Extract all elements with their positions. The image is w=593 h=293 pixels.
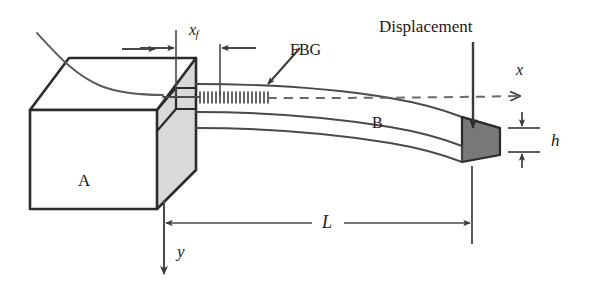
- xf-subscript: f: [196, 28, 199, 40]
- thickness-h-label: h: [551, 132, 560, 149]
- fbg-label: FBG: [290, 42, 321, 58]
- axis-y-label: y: [177, 243, 185, 260]
- beam-end-face: [462, 117, 500, 162]
- block-a-front-face: [30, 110, 157, 209]
- beam-b-label: B: [372, 115, 383, 131]
- fiber-position-xf-label: xf: [189, 22, 199, 40]
- fbg-grating-marks: [200, 92, 268, 103]
- fbg-cantilever-diagram: Displacement FBG A B L h x y xf: [0, 0, 593, 293]
- displacement-label: Displacement: [379, 18, 472, 35]
- length-L-label: L: [322, 213, 332, 231]
- x-axis-dashed-line: [268, 96, 520, 98]
- axis-x-label: x: [516, 62, 523, 78]
- block-a-label: A: [78, 172, 90, 189]
